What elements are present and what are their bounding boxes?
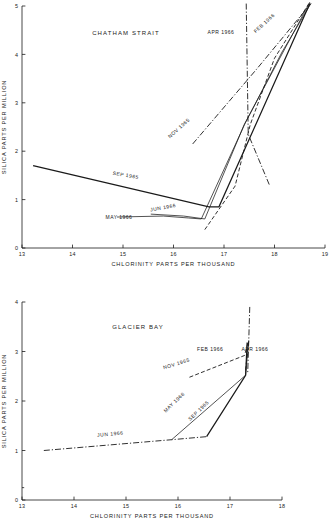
- x-axis-title: CHLORINITY PARTS PER THOUSAND: [111, 261, 235, 267]
- series-label-jun-1966: JUN 1966: [150, 202, 177, 212]
- y-tick-label: 2: [15, 398, 18, 404]
- y-tick-label: 2: [15, 148, 18, 154]
- x-tick-label: 13: [19, 251, 26, 257]
- axis-lines: [22, 6, 325, 248]
- series-label-nov-1965: NOV 1965: [162, 357, 190, 371]
- series-label-nov-1965: NOV 1965: [167, 117, 191, 140]
- x-tick-label: 14: [69, 251, 76, 257]
- series-line-feb-1966: [205, 4, 309, 230]
- glacier-bay-plot: 13141516171801234CHLORINITY PARTS PER TH…: [0, 272, 333, 527]
- y-tick-label: 0: [15, 497, 18, 503]
- x-tick-label: 16: [170, 251, 177, 257]
- x-tick-label: 14: [71, 503, 78, 509]
- x-tick-label: 16: [175, 503, 182, 509]
- series-label-apr-1966: APR 1966: [242, 346, 269, 352]
- axis-lines: [22, 302, 282, 500]
- series-label-sep-1965: SEP 1965: [112, 170, 139, 180]
- series-line-apr-1966: [248, 307, 250, 374]
- x-tick-label: 15: [120, 251, 127, 257]
- x-tick-label: 18: [279, 503, 286, 509]
- series-label-sep-1965: SEP 1965: [187, 399, 210, 422]
- x-tick-label: 18: [271, 251, 278, 257]
- y-tick-label: 0: [15, 245, 18, 251]
- series-label-jun-1966: JUN 1966: [97, 430, 124, 438]
- y-tick-label: 5: [15, 3, 18, 9]
- x-tick-label: 19: [322, 251, 329, 257]
- chart-panel-chatham-strait: 13141516171819012345CHLORINITY PARTS PER…: [0, 0, 333, 272]
- series-line-jun-1966: [44, 437, 207, 451]
- series-line-may-1966: [172, 341, 249, 440]
- y-tick-label: 3: [15, 100, 18, 106]
- figure-root: 13141516171819012345CHLORINITY PARTS PER…: [0, 0, 333, 527]
- series-line-nov-1965: [193, 4, 311, 144]
- series-label-may-1966: MAY 1966: [106, 214, 133, 220]
- chart-title: GLACIER BAY: [112, 324, 164, 330]
- x-tick-label: 17: [227, 503, 234, 509]
- series-line-sep-1965: [207, 343, 248, 437]
- y-tick-label: 1: [15, 448, 18, 454]
- x-tick-label: 15: [123, 503, 130, 509]
- y-tick-label: 4: [15, 52, 18, 58]
- series-label-feb-1966: FEB 1966: [197, 346, 223, 352]
- x-tick-label: 13: [19, 503, 26, 509]
- series-label-apr-1966: APR 1966: [208, 29, 235, 35]
- x-axis-title: CHLORINITY PARTS PER THOUSAND: [90, 513, 214, 519]
- y-axis-title: SILICA PARTS PER MILLION: [1, 354, 7, 449]
- y-tick-label: 4: [15, 299, 18, 305]
- series-label-may-1966: MAY 1966: [162, 391, 186, 414]
- y-axis-title: SILICA PARTS PER MILLION: [1, 80, 7, 175]
- series-line-sep-1965: [33, 4, 310, 207]
- chatham-strait-plot: 13141516171819012345CHLORINITY PARTS PER…: [0, 0, 333, 272]
- chart-title: CHATHAM STRAIT: [92, 30, 160, 36]
- y-tick-label: 3: [15, 349, 18, 355]
- chart-panel-glacier-bay: 13141516171801234CHLORINITY PARTS PER TH…: [0, 272, 333, 527]
- y-tick-label: 1: [15, 197, 18, 203]
- series-label-feb-1966: FEB 1966: [252, 12, 276, 34]
- x-tick-label: 17: [221, 251, 228, 257]
